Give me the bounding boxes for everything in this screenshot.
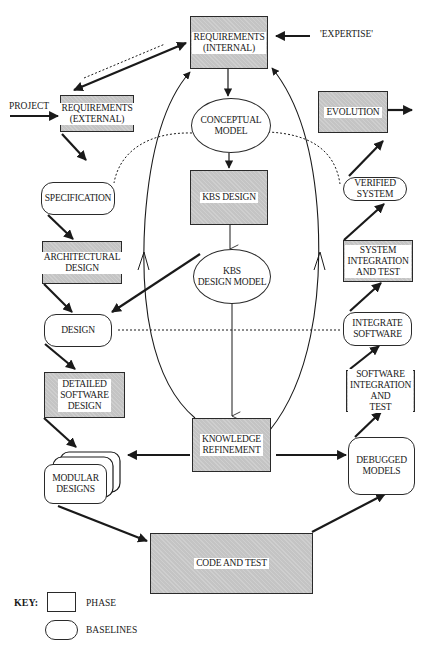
key-title: KEY:: [14, 597, 38, 608]
arrow-sw-integration-to-integrate: [350, 346, 379, 369]
arrow-model-to-design: [112, 254, 200, 312]
node-label: CODE AND TEST: [194, 558, 269, 569]
node-debugged-models: DEBUGGED MODELS: [348, 437, 415, 495]
input-expertise: 'EXPERTISE': [320, 29, 373, 39]
arrow-code-to-debugged: [312, 494, 385, 532]
node-architectural-design: ARCHITECTURAL DESIGN: [42, 241, 122, 284]
node-label: ARCHITECTURAL DESIGN: [42, 252, 123, 274]
dotted-link-req: [84, 44, 165, 78]
key-phase-swatch: [47, 592, 76, 612]
feedback-loop-right-chevron: [314, 252, 325, 270]
node-specification: SPECIFICATION: [41, 182, 115, 215]
node-label: CONCEPTUAL MODEL: [201, 115, 262, 137]
key-phase-label: PHASE: [86, 598, 116, 608]
node-label: REQUIREMENTS (EXTERNAL): [60, 103, 135, 125]
arrow-design-to-detailed: [45, 344, 75, 369]
node-label: VERIFIED SYSTEM: [354, 178, 396, 200]
node-label: KBS DESIGN: [200, 192, 258, 203]
node-evolution: EVOLUTION: [318, 91, 388, 133]
node-label: EVOLUTION: [324, 107, 381, 118]
node-conceptual-model: CONCEPTUAL MODEL: [191, 98, 271, 153]
arrow-req-external-req-internal: [74, 43, 186, 90]
node-verified-system: VERIFIED SYSTEM: [343, 177, 407, 201]
node-detailed-software-design: DETAILED SOFTWARE DESIGN: [44, 372, 125, 418]
feedback-loop-left: [144, 72, 195, 418]
node-code-and-test: CODE AND TEST: [150, 533, 313, 594]
node-label: INTEGRATE SOFTWARE: [352, 318, 402, 340]
dotted-link-conceptual-verified: [268, 132, 340, 184]
node-design: DESIGN: [44, 314, 112, 347]
node-label: KBS DESIGN MODEL: [198, 266, 267, 288]
node-knowledge-refinement: KNOWLEDGE REFINEMENT: [192, 418, 271, 472]
arrow-detailed-to-modular: [44, 418, 76, 447]
node-modular-designs: MODULAR DESIGNS: [44, 464, 107, 504]
arrow-verified-to-evolution: [349, 141, 383, 176]
arrow-integrate-to-system-integration: [350, 283, 381, 311]
arrow-debugged-to-sw-integration: [355, 412, 381, 437]
node-kbs-design: KBS DESIGN: [190, 170, 268, 225]
node-label: DESIGN: [61, 325, 95, 336]
node-label: SOFTWARE INTEGRATION AND TEST: [348, 369, 413, 413]
feedback-loop-right: [270, 68, 319, 430]
arrow-req-external-to-spec: [62, 134, 86, 160]
node-requirements-external: REQUIREMENTS (EXTERNAL): [60, 95, 134, 132]
arrow-arch-to-design: [44, 284, 72, 312]
arrow-system-integration-to-verified: [344, 204, 384, 240]
node-software-integration-test: SOFTWARE INTEGRATION AND TEST: [346, 370, 415, 412]
node-label: DETAILED SOFTWARE DESIGN: [58, 379, 111, 412]
node-kbs-design-model: KBS DESIGN MODEL: [193, 249, 271, 304]
node-integrate-software: INTEGRATE SOFTWARE: [343, 312, 412, 346]
node-requirements-internal: REQUIREMENTS (INTERNAL): [190, 16, 268, 69]
node-label: KNOWLEDGE REFINEMENT: [200, 434, 263, 456]
node-label: DEBUGGED MODELS: [356, 455, 407, 477]
input-project: PROJECT: [9, 101, 49, 111]
node-label: REQUIREMENTS (INTERNAL): [192, 32, 267, 54]
arrow-spec-to-arch: [48, 215, 73, 239]
node-label: SPECIFICATION: [45, 193, 112, 204]
key-baselines-label: BASELINES: [86, 625, 137, 635]
key-baselines-swatch: [45, 620, 78, 640]
node-system-integration-test: SYSTEM INTEGRATION AND TEST: [343, 240, 413, 282]
arrow-modular-to-code: [58, 506, 147, 541]
node-label: SYSTEM INTEGRATION AND TEST: [345, 245, 410, 278]
node-label: MODULAR DESIGNS: [52, 473, 99, 495]
